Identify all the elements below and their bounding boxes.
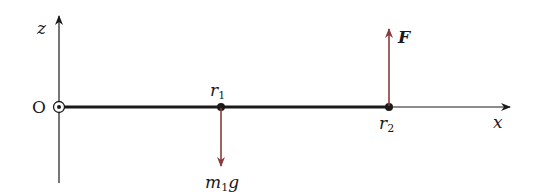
origin-label: O (32, 97, 46, 117)
force-f-label: F (397, 27, 412, 47)
out-of-page-icon (54, 102, 65, 113)
r1-label: r1 (210, 80, 225, 102)
r2-label: r2 (379, 113, 394, 135)
z-axis-label: z (36, 18, 47, 38)
torque-diagram: z x O r1 r2 F m1g (0, 0, 533, 196)
gravity-label: m1g (205, 172, 239, 194)
x-axis-label: x (493, 112, 503, 132)
